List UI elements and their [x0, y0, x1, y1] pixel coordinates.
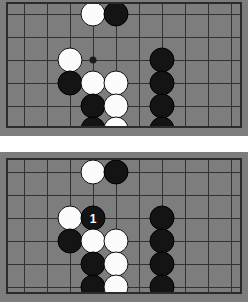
- stone-white: [104, 275, 129, 293]
- stone-black: [58, 229, 83, 254]
- go-diagram-figure: 1: [0, 0, 248, 302]
- stone-white: [104, 229, 129, 254]
- stone-black: [104, 160, 129, 185]
- board-plate: 1: [6, 158, 242, 294]
- stone-black: [81, 117, 106, 127]
- stone-black: [150, 94, 175, 119]
- stone-black: [150, 117, 175, 127]
- stone-black: [150, 48, 175, 73]
- stone-black: [104, 4, 129, 27]
- stone-white: [81, 4, 106, 27]
- stone-black: [150, 229, 175, 254]
- stone-black: [81, 275, 106, 293]
- board-plate: [6, 2, 242, 128]
- stone-white: [104, 252, 129, 277]
- stone-black: [150, 275, 175, 293]
- stone-white: [81, 229, 106, 254]
- stone-white: [58, 206, 83, 231]
- stone-white: [81, 71, 106, 96]
- stone-white: [104, 71, 129, 96]
- stone-black-numbered: 1: [81, 206, 106, 231]
- stones-layer: 1: [8, 160, 240, 292]
- stone-black: [150, 252, 175, 277]
- stone-black: [58, 71, 83, 96]
- stone-black: [81, 94, 106, 119]
- stone-black: [150, 71, 175, 96]
- stone-white: [58, 48, 83, 73]
- stone-black: [81, 252, 106, 277]
- stone-white: [104, 117, 129, 127]
- stone-black: [150, 206, 175, 231]
- go-board-top: [0, 0, 248, 136]
- stone-move-number: 1: [82, 207, 105, 230]
- go-board-bottom: 1: [0, 152, 248, 302]
- stones-layer: [8, 4, 240, 126]
- stone-white: [81, 160, 106, 185]
- stone-white: [104, 94, 129, 119]
